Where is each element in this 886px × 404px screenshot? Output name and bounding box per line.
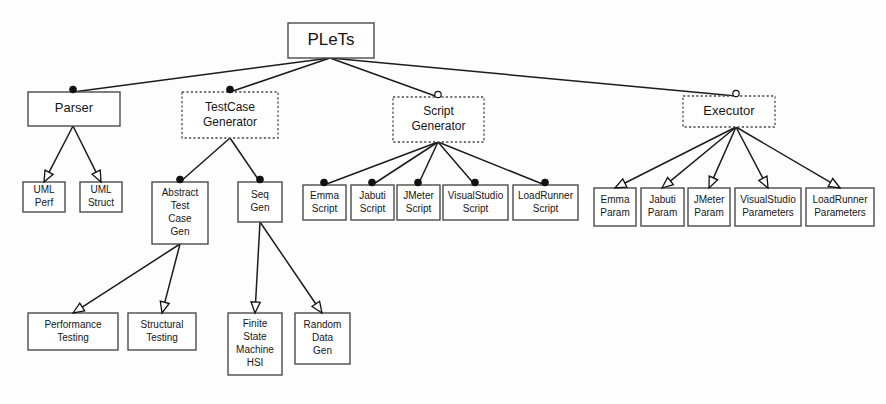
feature-label-line: Testing: [146, 332, 178, 343]
feature-label-line: Struct: [88, 197, 114, 208]
feature-node-finite_state_machine_hsi[interactable]: FiniteStateMachineHSI: [228, 313, 282, 375]
feature-label-line: Generator: [203, 115, 257, 129]
feature-label-line: Finite: [243, 318, 268, 329]
feature-node-visualstudio_parameters[interactable]: VisualStudioParameters: [735, 188, 801, 226]
feature-label-line: Script: [360, 203, 386, 214]
feature-label-line: Jabuti: [649, 194, 676, 205]
feature-label-line: Performance: [44, 319, 102, 330]
feature-node-loadrunner_parameters[interactable]: LoadRunnerParameters: [806, 188, 874, 226]
edge-line: [670, 127, 736, 182]
feature-node-abstract_test_case_gen[interactable]: AbstractTestCaseGen: [152, 182, 208, 244]
edge-line: [73, 126, 97, 173]
feature-node-seq_gen[interactable]: SeqGen: [238, 182, 282, 222]
plets-feature-model: PLeTsParserTestCaseGeneratorScriptGenera…: [0, 0, 886, 404]
edge-testcase_generator-to-abstract_test_case_gen: [180, 138, 230, 182]
feature-label-line: Script: [423, 104, 454, 118]
feature-label-line: Gen: [313, 345, 332, 356]
mandatory-marker-icon: [542, 179, 549, 186]
feature-label-line: PLeTs: [307, 30, 354, 49]
feature-node-plets[interactable]: PLeTs: [288, 23, 374, 58]
feature-node-jmeter_script[interactable]: JMeterScript: [397, 185, 440, 220]
edge-line: [624, 127, 736, 183]
alternative-arrow-icon: [312, 301, 322, 313]
edge-line: [49, 126, 73, 173]
mandatory-marker-icon: [227, 86, 234, 93]
edge-testcase_generator-to-seq_gen: [230, 138, 260, 182]
feature-label-line: LoadRunner: [518, 190, 574, 201]
feature-node-jmeter_param[interactable]: JMeterParam: [688, 188, 730, 226]
feature-label-line: Parser: [55, 100, 94, 115]
feature-label-line: Perf: [35, 197, 54, 208]
feature-node-script_generator[interactable]: ScriptGenerator: [393, 97, 484, 142]
feature-label-line: Executor: [703, 103, 755, 118]
edge-seq_gen-to-finite_state_machine_hsi: [256, 222, 260, 303]
alternative-arrow-icon: [759, 176, 768, 188]
feature-node-uml_perf[interactable]: UMLPerf: [23, 182, 65, 212]
alternative-arrow-icon: [709, 176, 718, 188]
feature-node-random_data_gen[interactable]: RandomDataGen: [295, 313, 350, 364]
feature-label-line: Parameters: [814, 207, 866, 218]
feature-node-performance_testing[interactable]: PerformanceTesting: [28, 313, 118, 350]
mandatory-marker-icon: [70, 86, 77, 93]
edge-executor-to-jmeter_param: [713, 127, 736, 179]
feature-label-line: Param: [648, 207, 677, 218]
feature-node-uml_struct[interactable]: UMLStruct: [80, 182, 122, 212]
feature-label-line: LoadRunner: [812, 194, 868, 205]
edge-plets-to-executor: [330, 58, 736, 96]
optional-marker-icon: [733, 90, 739, 96]
alternative-arrow-icon: [615, 179, 627, 188]
feature-label-line: Gen: [251, 202, 270, 213]
mandatory-marker-icon: [257, 176, 264, 183]
feature-node-jabuti_param[interactable]: JabutiParam: [641, 188, 684, 226]
feature-label-line: JMeter: [403, 190, 434, 201]
feature-label-line: Script: [312, 203, 338, 214]
feature-label-line: UML: [90, 184, 112, 195]
edge-parser-to-uml_perf: [49, 126, 73, 173]
feature-label-line: Script: [463, 203, 489, 214]
feature-node-parser[interactable]: Parser: [28, 92, 120, 126]
alternative-arrow-icon: [73, 303, 85, 313]
edge-plets-to-testcase_generator: [230, 58, 330, 92]
feature-label-line: Machine: [236, 344, 274, 355]
feature-label-line: Emma: [310, 190, 339, 201]
edge-line: [438, 142, 545, 185]
feature-node-testcase_generator[interactable]: TestCaseGenerator: [182, 92, 278, 138]
mandatory-marker-icon: [177, 176, 184, 183]
alternative-arrow-icon: [251, 302, 260, 313]
edge-seq_gen-to-random_data_gen: [260, 222, 316, 305]
edge-plets-to-script_generator: [330, 58, 438, 97]
mandatory-marker-icon: [415, 179, 422, 186]
feature-label-line: Emma: [601, 194, 630, 205]
feature-diagram-canvas: PLeTsParserTestCaseGeneratorScriptGenera…: [0, 0, 886, 404]
feature-node-emma_param[interactable]: EmmaParam: [594, 188, 636, 226]
feature-label-line: Testing: [57, 332, 89, 343]
feature-node-executor[interactable]: Executor: [683, 96, 775, 127]
edge-line: [330, 58, 438, 97]
edge-line: [438, 142, 475, 185]
edge-line: [713, 127, 736, 179]
feature-label-line: Generator: [411, 119, 465, 133]
edge-line: [230, 58, 330, 92]
feature-label-line: Gen: [171, 226, 190, 237]
feature-label-line: Script: [533, 203, 559, 214]
feature-label-line: Random: [304, 319, 342, 330]
feature-label-line: TestCase: [205, 100, 255, 114]
alternative-arrow-icon: [92, 170, 101, 182]
edge-line: [256, 222, 260, 303]
feature-label-line: HSI: [247, 357, 264, 368]
feature-label-line: Parameters: [742, 207, 794, 218]
feature-node-structural_testing[interactable]: StructuralTesting: [128, 313, 196, 350]
feature-node-emma_script[interactable]: EmmaScript: [303, 185, 346, 220]
feature-node-jabuti_script[interactable]: JabutiScript: [351, 185, 394, 220]
feature-node-visualstudio_script[interactable]: VisualStudioScript: [443, 185, 508, 220]
edge-line: [180, 138, 230, 182]
feature-label-line: Jabuti: [359, 190, 386, 201]
feature-node-loadrunner_script[interactable]: LoadRunnerScript: [513, 185, 578, 220]
edge-line: [330, 58, 736, 96]
edge-plets-to-parser: [73, 58, 330, 92]
feature-label-line: Script: [406, 203, 432, 214]
feature-label-line: Seq: [251, 189, 269, 200]
alternative-arrow-icon: [44, 170, 53, 182]
alternative-arrow-icon: [160, 301, 169, 313]
feature-label-line: Case: [168, 213, 192, 224]
